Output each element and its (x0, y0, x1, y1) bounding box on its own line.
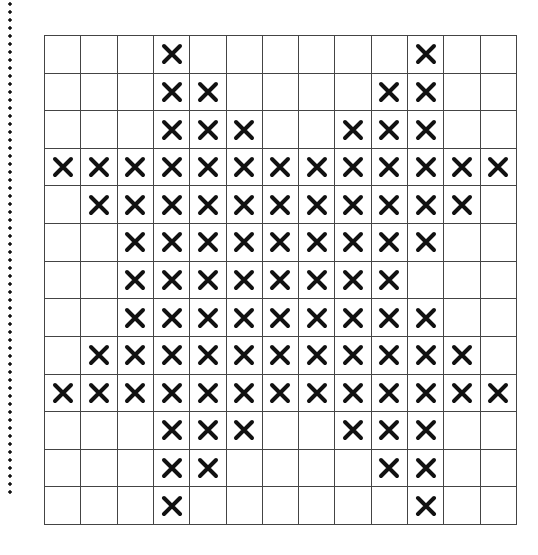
grid-cell (227, 262, 263, 300)
grid-cell (118, 36, 154, 74)
grid-cell (372, 450, 408, 488)
grid-cell (372, 412, 408, 450)
grid-cell (335, 487, 371, 525)
x-mark-icon (306, 194, 328, 216)
x-mark-icon (451, 344, 473, 366)
grid-cell (481, 450, 517, 488)
grid-cell (372, 74, 408, 112)
x-mark-icon (415, 457, 437, 479)
grid-cell (408, 111, 444, 149)
x-mark-icon (415, 419, 437, 441)
grid-cell (263, 36, 299, 74)
grid-cell (45, 487, 81, 525)
x-mark-icon (378, 307, 400, 329)
x-mark-icon (161, 194, 183, 216)
grid-cell (372, 149, 408, 187)
grid-cell (118, 299, 154, 337)
x-mark-icon (306, 156, 328, 178)
grid-cell (335, 299, 371, 337)
grid-cell (372, 337, 408, 375)
grid-cell (335, 375, 371, 413)
grid-cell (444, 149, 480, 187)
grid-cell (227, 487, 263, 525)
grid-cell (118, 186, 154, 224)
grid-cell (227, 375, 263, 413)
x-mark-icon (233, 419, 255, 441)
grid-cell (335, 186, 371, 224)
grid-cell (481, 36, 517, 74)
x-mark-icon (197, 419, 219, 441)
grid-cell (299, 337, 335, 375)
grid-cell (118, 111, 154, 149)
grid-cell (335, 149, 371, 187)
grid-cell (81, 111, 117, 149)
grid-cell (227, 412, 263, 450)
x-mark-icon (306, 269, 328, 291)
x-mark-icon (342, 231, 364, 253)
grid-cell (227, 299, 263, 337)
grid-cell (444, 186, 480, 224)
grid-cell (335, 111, 371, 149)
x-mark-icon (378, 457, 400, 479)
grid-cell (408, 450, 444, 488)
grid-cell (481, 299, 517, 337)
grid-cell (408, 412, 444, 450)
grid-cell (372, 224, 408, 262)
x-mark-icon (269, 344, 291, 366)
grid-cell (81, 487, 117, 525)
x-mark-icon (451, 194, 473, 216)
grid-cell (227, 224, 263, 262)
x-mark-icon (197, 156, 219, 178)
grid-cell (444, 337, 480, 375)
grid-cell (154, 149, 190, 187)
x-mark-icon (161, 344, 183, 366)
grid-cell (81, 299, 117, 337)
x-mark-icon (233, 194, 255, 216)
grid-cell (481, 186, 517, 224)
grid-cell (118, 149, 154, 187)
grid-cell (154, 450, 190, 488)
grid-cell (408, 375, 444, 413)
x-mark-icon (52, 382, 74, 404)
grid-cell (45, 337, 81, 375)
grid-cell (372, 375, 408, 413)
x-mark-icon (342, 419, 364, 441)
pattern-grid (44, 35, 517, 525)
x-mark-icon (342, 307, 364, 329)
grid-cell (81, 74, 117, 112)
grid-cell (335, 262, 371, 300)
grid-cell (154, 36, 190, 74)
grid-cell (45, 375, 81, 413)
grid-cell (335, 412, 371, 450)
grid-cell (81, 186, 117, 224)
grid-cell (481, 337, 517, 375)
x-mark-icon (233, 119, 255, 141)
grid-cell (444, 487, 480, 525)
grid-cell (154, 224, 190, 262)
x-mark-icon (378, 119, 400, 141)
x-mark-icon (342, 269, 364, 291)
grid-cell (299, 450, 335, 488)
grid-cell (190, 487, 226, 525)
x-mark-icon (342, 194, 364, 216)
x-mark-icon (161, 307, 183, 329)
x-mark-icon (233, 344, 255, 366)
x-mark-icon (197, 269, 219, 291)
grid-cell (263, 375, 299, 413)
x-mark-icon (161, 382, 183, 404)
grid-cell (408, 36, 444, 74)
x-mark-icon (124, 382, 146, 404)
x-mark-icon (306, 382, 328, 404)
x-mark-icon (161, 231, 183, 253)
x-mark-icon (197, 81, 219, 103)
x-mark-icon (415, 231, 437, 253)
grid-cell (263, 487, 299, 525)
x-mark-icon (269, 269, 291, 291)
x-mark-icon (88, 382, 110, 404)
x-mark-icon (342, 119, 364, 141)
grid-cell (227, 450, 263, 488)
grid-cell (190, 262, 226, 300)
x-mark-icon (124, 269, 146, 291)
grid-cell (118, 224, 154, 262)
grid-cell (444, 375, 480, 413)
